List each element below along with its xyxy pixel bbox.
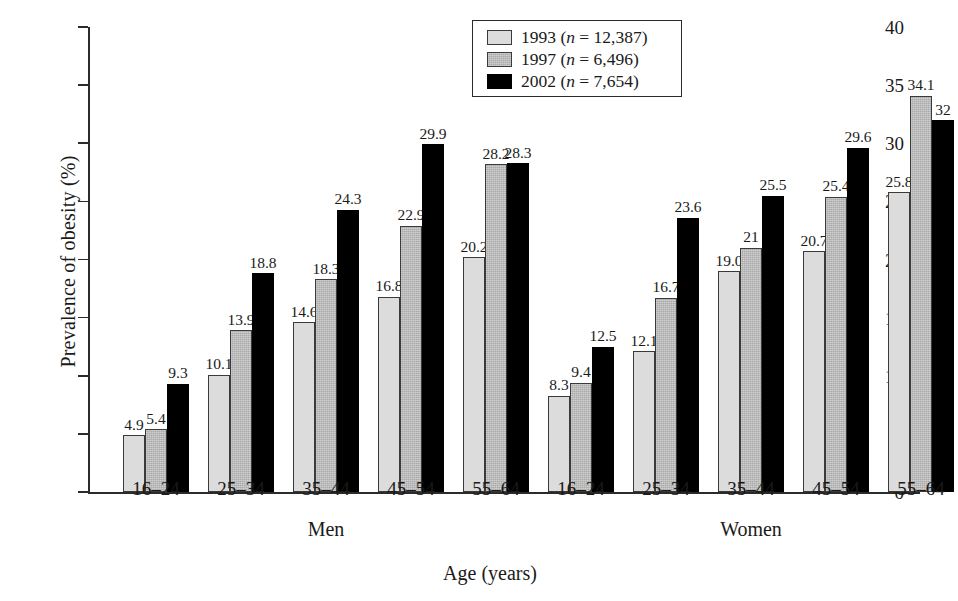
bar-women-16-24-2002	[592, 347, 614, 492]
bar-value-label: 18.8	[241, 255, 285, 271]
legend-swatch-1993	[487, 30, 512, 45]
legend-n-eq-1993: =	[575, 27, 594, 47]
legend-label-1997: 1997 (n = 6,496)	[521, 51, 639, 69]
bar-value-label: 12.5	[581, 328, 625, 344]
y-tick-25	[78, 201, 88, 203]
legend-n-var-1993: n	[566, 27, 575, 47]
y-tick-35	[78, 84, 88, 86]
legend-item-1993: 1993 (n = 12,387)	[487, 27, 681, 48]
x-tick-label-women-55-64: 55–64	[866, 478, 958, 500]
legend-n-value-2002: 7,654)	[594, 71, 639, 91]
bar-value-label: 29.6	[836, 129, 880, 145]
bar-women-16-24-1997	[570, 383, 592, 492]
bar-value-label: 9.3	[156, 365, 200, 381]
bar-men-55-64-1993	[463, 257, 485, 492]
bar-value-label: 32	[921, 102, 958, 118]
bar-men-25-34-2002	[252, 273, 274, 492]
bar-value-label: 28.3	[496, 145, 540, 161]
bar-value-label: 24.3	[326, 191, 370, 207]
legend-year-1993: 1993	[521, 27, 556, 47]
legend-swatch-2002	[487, 74, 512, 89]
bar-women-35-44-1997	[740, 248, 762, 492]
y-tick-label-30: 30	[885, 134, 904, 153]
legend-n-value-1993: 12,387)	[594, 27, 648, 47]
bar-women-35-44-2002	[762, 196, 784, 492]
legend-n-value-1997: 6,496)	[594, 49, 639, 69]
bar-men-55-64-1997	[485, 164, 507, 492]
legend-item-2002: 2002 (n = 7,654)	[487, 71, 681, 92]
y-tick-20	[78, 259, 88, 261]
y-tick-5	[78, 433, 88, 435]
y-tick-30	[78, 142, 88, 144]
bar-men-35-44-1993	[293, 322, 315, 492]
legend-year-2002: 2002	[521, 71, 556, 91]
bar-men-35-44-2002	[337, 210, 359, 492]
bar-value-label: 23.6	[666, 199, 710, 215]
bar-men-25-34-1993	[208, 375, 230, 492]
bar-men-45-54-1993	[378, 297, 400, 492]
y-tick-10	[78, 375, 88, 377]
bar-men-16-24-2002	[167, 384, 189, 492]
legend: 1993 (n = 12,387) 1997 (n = 6,496) 2002 …	[472, 20, 682, 97]
bar-women-25-34-2002	[677, 218, 699, 492]
y-tick-0	[78, 491, 88, 493]
bar-men-25-34-1997	[230, 330, 252, 492]
y-axis-title: Prevalence of obesity (%)	[57, 42, 80, 482]
bar-women-55-64-2002	[932, 120, 954, 492]
bar-women-55-64-1993	[888, 192, 910, 492]
bar-men-55-64-2002	[507, 163, 529, 492]
legend-swatch-1997	[487, 52, 512, 67]
bar-women-45-54-2002	[847, 148, 869, 492]
y-axis-line	[88, 27, 90, 492]
bar-value-label: 34.1	[899, 77, 943, 93]
y-tick-40	[78, 26, 88, 28]
group-label-men: Men	[236, 518, 416, 541]
legend-n-eq-2002: =	[575, 71, 594, 91]
bar-value-label: 25.5	[751, 177, 795, 193]
bar-women-45-54-1993	[803, 251, 825, 492]
y-tick-label-40: 40	[885, 18, 904, 37]
legend-n-var-2002: n	[566, 71, 575, 91]
legend-year-1997: 1997	[521, 49, 556, 69]
bar-women-55-64-1997	[910, 96, 932, 492]
legend-n-var-1997: n	[566, 49, 575, 69]
bar-men-45-54-2002	[422, 144, 444, 492]
y-tick-15	[78, 317, 88, 319]
bar-women-35-44-1993	[718, 271, 740, 492]
bar-women-25-34-1997	[655, 298, 677, 492]
legend-item-1997: 1997 (n = 6,496)	[487, 49, 681, 70]
x-axis-title: Age (years)	[390, 562, 590, 585]
legend-n-eq-1997: =	[575, 49, 594, 69]
bar-women-25-34-1993	[633, 351, 655, 492]
bar-men-45-54-1997	[400, 226, 422, 492]
bar-women-45-54-1997	[825, 197, 847, 492]
legend-label-1993: 1993 (n = 12,387)	[521, 29, 648, 47]
legend-label-2002: 2002 (n = 7,654)	[521, 73, 639, 91]
bar-value-label: 29.9	[411, 126, 455, 142]
group-label-women: Women	[661, 518, 841, 541]
bar-men-35-44-1997	[315, 279, 337, 492]
